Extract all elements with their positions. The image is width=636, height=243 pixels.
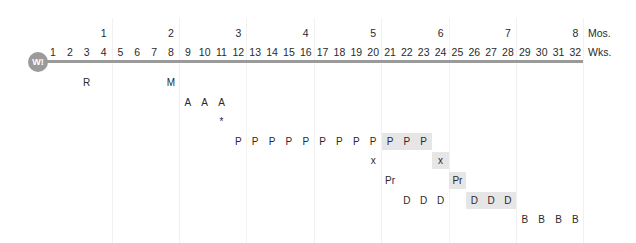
activity-cell: A — [196, 94, 213, 111]
activity-cell: Pr — [449, 172, 466, 189]
activity-cell: P — [331, 133, 348, 150]
activity-cell: * — [213, 113, 230, 130]
activity-cell: P — [297, 133, 314, 150]
activity-cell: B — [516, 211, 533, 228]
activity-cell: B — [550, 211, 567, 228]
activity-cell: D — [415, 192, 432, 209]
activity-cell: M — [162, 74, 179, 91]
w-badge-icon: W! — [28, 52, 48, 72]
month-tick-label: 6 — [431, 27, 451, 39]
activity-cell: x — [365, 152, 382, 169]
activity-cell: P — [280, 133, 297, 150]
activity-cell: Pr — [382, 172, 399, 189]
activity-cell: B — [567, 211, 584, 228]
activity-cell: R — [78, 74, 95, 91]
activity-cell: A — [179, 94, 196, 111]
activity-cell: P — [230, 133, 247, 150]
activity-cell: D — [432, 192, 449, 209]
activity-cell: D — [398, 192, 415, 209]
activity-cell: P — [247, 133, 264, 150]
activity-cell: P — [264, 133, 281, 150]
activity-cell: P — [382, 133, 399, 150]
month-tick-label: 4 — [296, 27, 316, 39]
months-axis-label: Mos. — [588, 27, 611, 39]
month-tick-label: 2 — [161, 27, 181, 39]
week-tick-label: 32 — [565, 46, 585, 58]
activity-cell: P — [365, 133, 382, 150]
activity-cell: D — [483, 192, 500, 209]
activity-cell: P — [415, 133, 432, 150]
weeks-axis-label: Wks. — [588, 46, 611, 58]
month-tick-label: 8 — [565, 27, 585, 39]
month-tick-label: 1 — [94, 27, 114, 39]
month-tick-label: 3 — [228, 27, 248, 39]
activity-cell: A — [213, 94, 230, 111]
timeline-bar — [40, 60, 583, 63]
activity-cell: x — [432, 152, 449, 169]
activity-cell: D — [466, 192, 483, 209]
activity-cell: B — [533, 211, 550, 228]
activity-cell: P — [398, 133, 415, 150]
month-tick-label: 7 — [498, 27, 518, 39]
activity-cell: D — [499, 192, 516, 209]
activity-cell: P — [348, 133, 365, 150]
activity-cell: P — [314, 133, 331, 150]
month-tick-label: 5 — [363, 27, 383, 39]
